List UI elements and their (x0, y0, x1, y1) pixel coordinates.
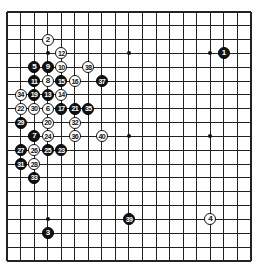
black-stone: 7 (28, 130, 40, 142)
white-stone: 14 (55, 89, 67, 101)
grid-line-vertical (196, 12, 197, 261)
white-stone: 26 (28, 144, 40, 156)
black-stone: 15 (55, 75, 67, 87)
grid-line-vertical (237, 12, 238, 261)
black-stone: 17 (55, 103, 67, 115)
black-stone: 19 (28, 89, 40, 101)
white-stone: 36 (69, 130, 81, 142)
black-stone: 21 (69, 103, 81, 115)
grid-line-vertical (142, 12, 143, 261)
grid-line-horizontal (7, 177, 251, 178)
grid-line-vertical (169, 12, 170, 261)
black-stone: 39 (123, 213, 135, 225)
grid-line-vertical (183, 12, 184, 261)
white-stone: 24 (42, 130, 54, 142)
black-stone: 27 (15, 144, 27, 156)
hoshi-point (208, 134, 212, 138)
white-stone: 10 (55, 61, 67, 73)
black-stone: 9 (42, 61, 54, 73)
grid-line-vertical (250, 12, 252, 261)
hoshi-point (127, 134, 131, 138)
black-stone: 13 (42, 89, 54, 101)
black-stone: 35 (82, 103, 94, 115)
grid-line-horizontal (7, 260, 251, 262)
black-stone: 23 (55, 144, 67, 156)
white-stone: 20 (42, 117, 54, 129)
white-stone: 2 (42, 34, 54, 46)
black-stone: 31 (15, 158, 27, 170)
white-stone: 8 (42, 75, 54, 87)
black-stone: 37 (96, 75, 108, 87)
white-stone: 4 (204, 213, 216, 225)
white-stone: 28 (28, 158, 40, 170)
hoshi-point (208, 51, 212, 55)
go-board[interactable]: 1234567891011121314151617192021222324252… (0, 0, 257, 270)
white-stone: 6 (42, 103, 54, 115)
white-stone: 22 (15, 103, 27, 115)
grid-line-vertical (156, 12, 157, 261)
black-stone: 25 (42, 144, 54, 156)
hoshi-point (46, 217, 50, 221)
white-stone: 34 (15, 89, 27, 101)
white-stone: 38 (82, 61, 94, 73)
grid-line-horizontal (7, 247, 251, 248)
hoshi-point (127, 51, 131, 55)
black-stone: 33 (28, 172, 40, 184)
black-stone: 5 (28, 61, 40, 73)
white-stone: 30 (28, 103, 40, 115)
white-stone: 40 (96, 130, 108, 142)
white-stone: 32 (69, 117, 81, 129)
black-stone: 29 (15, 117, 27, 129)
white-stone: 12 (55, 47, 67, 59)
grid-line-horizontal (7, 205, 251, 206)
grid-line-horizontal (7, 164, 251, 165)
white-stone: 16 (69, 75, 81, 87)
black-stone: 11 (28, 75, 40, 87)
grid-line-horizontal (7, 191, 251, 192)
black-stone: 3 (42, 227, 54, 239)
black-stone: 1 (218, 47, 230, 59)
